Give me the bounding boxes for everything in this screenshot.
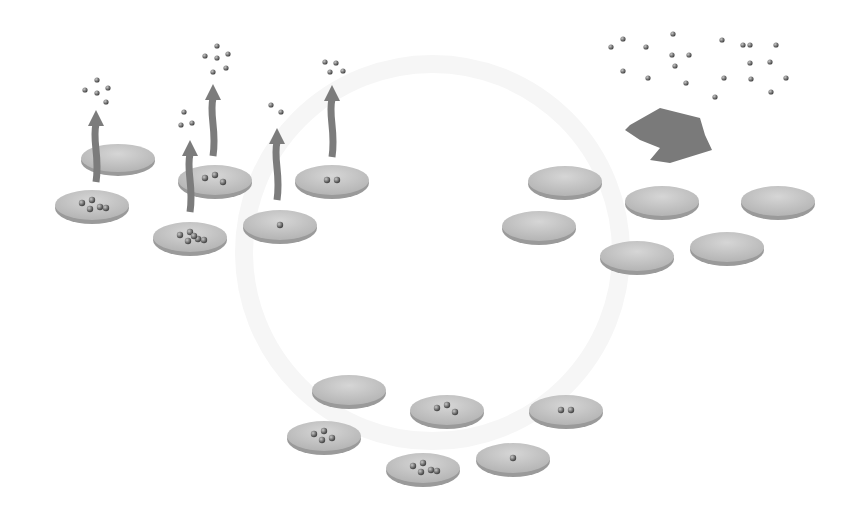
dish [312,375,386,409]
condensing-dishes-cluster [287,375,603,487]
particle [783,75,788,80]
particle [322,59,327,64]
vapor-particles-layer [82,31,788,127]
particle [202,53,207,58]
particle [334,177,340,183]
particle [452,409,458,415]
particle [178,122,183,127]
up-arrow-icon [324,85,340,157]
dish [386,453,460,487]
particle [225,51,230,56]
dish [55,190,129,224]
particle [202,175,208,181]
particle [510,455,516,461]
vapor-group [202,43,230,74]
particle [670,31,675,36]
particle [434,405,440,411]
particle [278,109,283,114]
particle [210,69,215,74]
vapor-group [178,109,194,127]
dish [528,166,602,200]
particle [672,63,677,68]
dish [741,186,815,220]
particle [686,52,691,57]
particle [324,177,330,183]
particle [214,43,219,48]
particle [608,44,613,49]
particle [444,402,450,408]
particle [212,172,218,178]
particle [683,80,688,85]
particle [643,44,648,49]
particle [94,77,99,82]
particle [768,89,773,94]
particle [87,206,93,212]
particle [719,37,724,42]
particle [748,76,753,81]
particle [558,407,564,413]
dishes-layer [55,144,815,487]
particle [327,69,332,74]
particle [721,75,726,80]
particle [220,179,226,185]
particle [620,36,625,41]
dish [243,210,317,244]
particle [177,232,183,238]
particle [181,109,186,114]
particle [333,60,338,65]
particle [645,75,650,80]
dish [153,222,227,256]
particle [669,52,674,57]
particle [321,428,327,434]
dish [502,211,576,245]
heat-shape-layer [625,108,712,163]
heat-wave-icon [625,108,712,163]
particle [420,460,426,466]
dish [625,186,699,220]
particle [82,87,87,92]
particle [97,204,103,210]
particle [747,42,752,47]
particle [340,68,345,73]
particle [277,222,283,228]
particle [428,467,434,473]
dish [410,395,484,429]
particle [747,60,752,65]
empty-dishes-cluster [502,166,815,275]
particle [89,197,95,203]
diagram-svg [0,0,858,515]
particle [434,468,440,474]
particle [201,237,207,243]
particle [712,94,717,99]
diagram-canvas [0,0,858,515]
particle [311,431,317,437]
particle [620,68,625,73]
vapor-group [82,77,110,104]
up-arrow-icon [205,84,221,156]
particle [329,435,335,441]
dish [690,232,764,266]
dish [81,144,155,176]
particle [191,233,197,239]
dish [287,421,361,455]
vapor-group [268,102,283,114]
vapor-group [322,59,345,74]
particle [410,463,416,469]
particle [268,102,273,107]
particle [105,85,110,90]
evaporating-dishes-cluster [55,144,369,256]
dish [529,395,603,429]
particle [319,437,325,443]
dish [600,241,674,275]
particle [185,238,191,244]
particle [773,42,778,47]
particle [223,65,228,70]
particle [740,42,745,47]
dish [476,443,550,477]
particle [418,469,424,475]
dish [295,165,369,199]
up-arrow-icon [269,128,285,200]
particle [189,120,194,125]
particle [568,407,574,413]
particle [103,205,109,211]
